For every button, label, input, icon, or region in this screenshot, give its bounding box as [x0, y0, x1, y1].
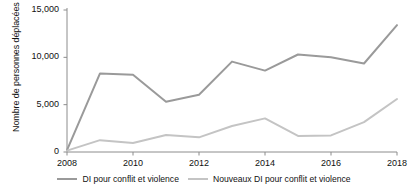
chart-container: Nombre de personnes déplacées (milliers)…	[0, 0, 408, 191]
x-tick-label: 2012	[179, 158, 219, 168]
x-tick-label: 2014	[245, 158, 285, 168]
y-tick-label: 10,000	[15, 51, 59, 61]
legend-line-icon	[188, 178, 208, 180]
legend-item-label: DI pour conflit et violence	[82, 174, 179, 184]
legend-item-label: Nouveaux DI pour conflit et violence	[213, 174, 351, 184]
chart-legend: DI pour conflit et violenceNouveaux DI p…	[0, 174, 408, 184]
legend-item: DI pour conflit et violence	[57, 174, 179, 184]
x-tick-label: 2008	[47, 158, 87, 168]
y-tick-label: 15,000	[15, 4, 59, 14]
series-line-2	[67, 99, 397, 151]
legend-item: Nouveaux DI pour conflit et violence	[188, 174, 351, 184]
series-line-1	[67, 25, 397, 150]
y-tick-label: 0	[15, 146, 59, 156]
x-tick-label: 2018	[377, 158, 408, 168]
x-tick-label: 2016	[311, 158, 351, 168]
y-tick-label: 5,000	[15, 99, 59, 109]
x-tick-label: 2010	[113, 158, 153, 168]
legend-line-icon	[57, 178, 77, 180]
